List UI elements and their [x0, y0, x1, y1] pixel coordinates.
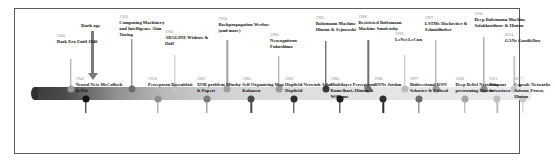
event-title: Dark Era	[57, 39, 76, 44]
event-year: 1980	[270, 32, 320, 37]
event-author: Srivastava	[489, 88, 510, 93]
event-title: Bidirectional RNN	[410, 82, 447, 87]
event-marker-dot[interactable]	[461, 95, 468, 102]
event-title: GANs	[505, 38, 517, 43]
event-year: 1940	[57, 33, 104, 38]
event-author: Jordan	[387, 82, 401, 87]
event-label: 1950Computing Machinery and Intelligence…	[119, 14, 171, 37]
event-title: Neocognitron	[270, 38, 297, 43]
event-author: Goodfellow	[518, 38, 541, 43]
event-marker-dot[interactable]	[248, 95, 255, 102]
event-label: 1997LSTMs Hochreiter & Schmidhuber	[425, 15, 482, 33]
event-marker-dot[interactable]	[203, 95, 210, 102]
event-label: 1985Boltzmann Machine Hinton & Sejnowski	[316, 15, 365, 33]
dark-age-annotation-label: Dark age	[81, 23, 101, 28]
event-year: 1986	[374, 76, 411, 81]
event-marker-dot[interactable]	[155, 95, 162, 102]
event-year: 2014	[505, 32, 547, 37]
event-year: 1950	[119, 14, 171, 19]
event-author: Fukushima	[270, 44, 292, 49]
event-label: 1986Multilayer Perceptron Rumelhart, Hin…	[331, 76, 378, 99]
event-title: Neural Nets	[76, 82, 100, 87]
event-label: 1980Neocognitron Fukushima	[270, 32, 320, 50]
timeline-axis-start-cap	[31, 87, 38, 100]
event-label: 1986Restricted Boltzmann Machine Smolens…	[358, 14, 408, 32]
event-year: 1980	[242, 76, 287, 81]
event-year: 1958	[148, 76, 195, 81]
event-author: Hinton & Sejnowski	[316, 27, 356, 32]
event-author: Salakhutdinov & Hinton	[474, 23, 523, 28]
event-year: 2017	[514, 76, 555, 81]
event-title: LeNet	[395, 37, 407, 42]
event-label: 1982Hopfield Network John Hopfield	[285, 76, 332, 94]
event-author: Smolensky	[377, 26, 398, 31]
event-year: 2006	[474, 11, 526, 16]
event-label: 1986RNNs Jordan	[374, 76, 411, 88]
event-title: LSTMs	[425, 21, 440, 26]
event-title: Deep Boltzmann Machine	[474, 17, 525, 22]
event-title: Backpropagation	[219, 22, 253, 27]
event-author: Sabour, Frosst, Hinton	[514, 88, 544, 99]
event-marker-dot[interactable]	[494, 95, 501, 102]
event-marker-dot[interactable]	[67, 85, 74, 92]
event-title: Multilayer Perceptron	[331, 82, 375, 87]
event-label: 1943Neural Nets McCulloch & Pitt	[76, 76, 123, 94]
event-author: Rosenblatt	[171, 82, 192, 87]
event-year: 1969	[197, 76, 244, 81]
event-marker-dot[interactable]	[380, 95, 387, 102]
event-label: 1990LeNet LeCun	[395, 31, 430, 43]
event-year: 1982	[285, 76, 332, 81]
event-marker-dot[interactable]	[415, 95, 422, 102]
event-author: Until 1940	[77, 39, 98, 44]
event-title: ADALINE	[165, 35, 186, 40]
event-stem	[131, 39, 132, 89]
event-label: 1940Dark Era Until 1940	[57, 33, 104, 45]
diagram-frame: Dark age 1940Dark Era Until 19401950Comp…	[14, 8, 520, 154]
event-year: 1986	[331, 76, 378, 81]
event-title: Self Organizing Map	[242, 82, 283, 87]
event-label: 1969XOR problem Minsky & Papert	[197, 76, 244, 94]
event-year: 1997	[425, 15, 482, 20]
event-label: 1960ADALINE Widrow & Hoff	[165, 29, 215, 47]
event-title: Hopfield Network	[285, 82, 321, 87]
event-label: 2014GANs Goodfellow	[505, 32, 547, 44]
event-year: 1997	[410, 76, 460, 81]
event-year: 1974	[219, 16, 271, 21]
event-year: 1986	[358, 14, 408, 19]
event-author: Kohonen	[242, 88, 260, 93]
event-author: Schuster & Paliwal	[410, 88, 448, 93]
event-label: 1980Self Organizing Map Kohonen	[242, 76, 287, 94]
event-year: 1985	[316, 15, 365, 20]
event-label: 2006Deep Boltzmann Machine Salakhutdinov…	[474, 11, 526, 29]
event-year: 1960	[165, 29, 215, 34]
event-year: 1943	[76, 76, 123, 81]
event-title: Capsule Networks	[514, 82, 550, 87]
event-title: XOR problem	[197, 82, 225, 87]
event-marker-dot[interactable]	[82, 95, 89, 102]
event-author: Rumelhart, Hinton & Williams	[331, 88, 374, 99]
event-label: 2017Capsule Networks Sabour, Frosst, Hin…	[514, 76, 555, 99]
event-title: Perceptron	[148, 82, 170, 87]
event-marker-dot[interactable]	[128, 85, 135, 92]
event-label: 1997Bidirectional RNN Schuster & Paliwal	[410, 76, 460, 94]
event-title: Boltzmann Machine	[316, 21, 356, 26]
event-marker-dot[interactable]	[290, 95, 297, 102]
event-title: Dropout	[489, 82, 506, 87]
event-title: RNNs	[374, 82, 386, 87]
event-author: LeCun	[408, 37, 422, 42]
event-label: 1958Perceptron Rosenblatt	[148, 76, 195, 88]
event-label: 1974Backpropagation Werbos (and more)	[219, 16, 271, 34]
